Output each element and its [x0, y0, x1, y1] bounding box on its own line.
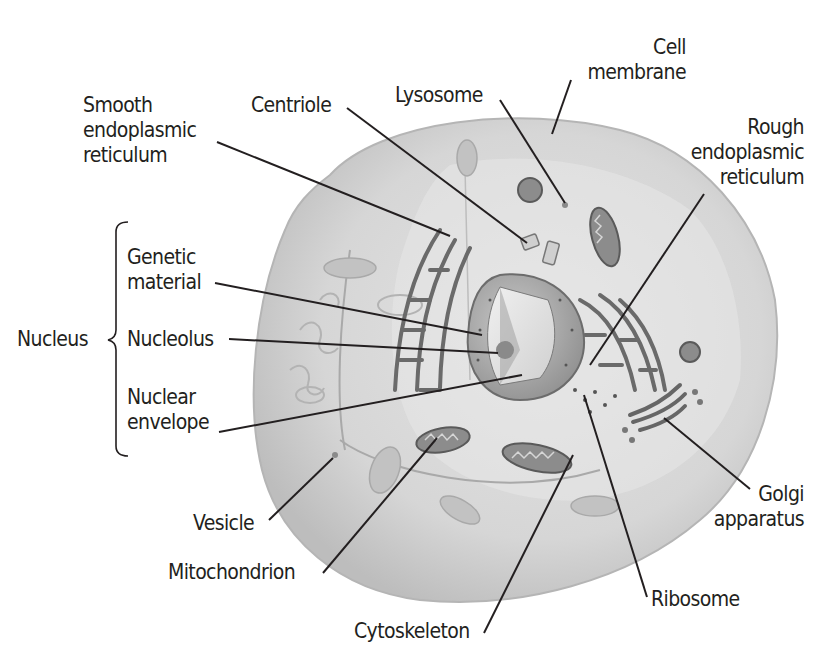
label-cytoskeleton: Cytoskeleton [354, 619, 470, 644]
label-mitochondrion: Mitochondrion [168, 560, 295, 585]
label-nucleus: Nucleus [17, 327, 88, 352]
label-nucleolus: Nucleolus [127, 327, 214, 352]
label-nuclear-envelope: Nuclear envelope [127, 385, 209, 435]
nucleolus-shape [496, 341, 514, 359]
label-vesicle: Vesicle [193, 511, 254, 536]
nucleus-cutaway [488, 287, 555, 385]
label-centriole: Centriole [251, 93, 331, 118]
label-lysosome: Lysosome [395, 83, 483, 108]
label-smooth-er: Smooth endoplasmic reticulum [83, 93, 196, 168]
label-rough-er: Rough endoplasmic reticulum [670, 115, 804, 190]
label-genetic-material: Genetic material [127, 245, 201, 295]
vesicle-shape [332, 452, 338, 458]
label-ribosome: Ribosome [651, 587, 740, 612]
nucleus-bracket [108, 222, 128, 456]
label-golgi: Golgi apparatus [690, 482, 804, 532]
label-cell-membrane: Cell membrane [574, 35, 686, 85]
